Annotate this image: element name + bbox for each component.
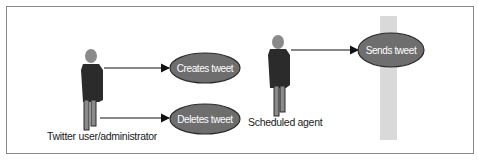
actor-twitter-user-icon <box>81 49 103 130</box>
use-case-creates-tweet: Creates tweet <box>170 53 240 83</box>
use-case-sends-tweet: Sends tweet <box>358 33 424 67</box>
actor-label-twitter-user: Twitter user/administrator <box>47 130 157 142</box>
use-case-deletes-tweet: Deletes tweet <box>170 104 240 134</box>
use-case-label: Sends tweet <box>366 45 417 56</box>
use-case-label: Deletes tweet <box>177 114 233 125</box>
actor-label-scheduled-agent: Scheduled agent <box>248 116 322 128</box>
use-case-label: Creates tweet <box>177 63 234 74</box>
actor-scheduled-agent-icon <box>268 35 290 116</box>
